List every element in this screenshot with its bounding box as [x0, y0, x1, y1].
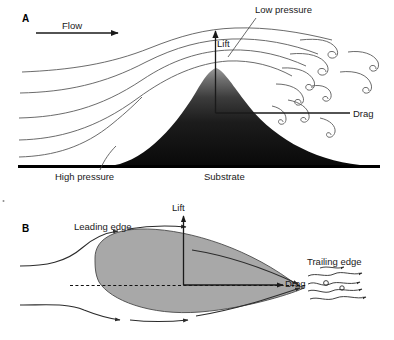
wake-squiggle-5 [320, 267, 344, 268]
eddy-10 [312, 85, 331, 101]
b-streamline-upper-mid [128, 226, 186, 229]
b-streamline-lower-mid [130, 320, 188, 322]
eddy-7 [288, 100, 309, 122]
high-pressure-label: High pressure [55, 171, 114, 182]
streamline-5 [19, 97, 142, 157]
eddy-8 [272, 106, 286, 124]
diagram-svg: Flow Lift Drag Low pressure High pressur… [0, 0, 394, 340]
flow-label: Flow [62, 20, 82, 31]
wake-squiggle-3 [308, 289, 362, 292]
streamline-3 [19, 50, 306, 118]
low-pressure-label: Low pressure [255, 4, 312, 15]
eddy-3 [348, 51, 379, 71]
wake-group [308, 267, 366, 299]
eddy-5 [340, 72, 372, 94]
eddy-1 [300, 39, 338, 58]
eddy-4 [282, 68, 315, 90]
drag-label-a: Drag [353, 108, 374, 119]
wake-squiggle-1 [308, 273, 362, 276]
substrate-mound [108, 68, 378, 166]
wake-squiggle-2 [308, 282, 360, 285]
airfoil-body [95, 229, 304, 313]
eddy-2 [290, 53, 328, 75]
substrate-label: Substrate [204, 171, 245, 182]
lift-label-a: Lift [217, 38, 230, 49]
panel-a: Flow Lift Drag Low pressure High pressur… [18, 4, 380, 182]
eddy-group [272, 39, 379, 137]
panel-b-letter: B [22, 223, 29, 234]
drag-label-b: Drag [285, 278, 306, 289]
b-streamline-lower-front [20, 305, 120, 320]
leading-edge-label: Leading edge [74, 221, 132, 232]
trailing-edge-label: Trailing edge [307, 256, 362, 267]
lift-label-b: Lift [172, 202, 185, 213]
eddy-9 [320, 118, 335, 137]
panel-a-letter: A [22, 13, 29, 24]
streamline-2 [20, 39, 318, 93]
figure-root: Flow Lift Drag Low pressure High pressur… [0, 0, 394, 340]
margin-artifact [3, 200, 5, 202]
streamline-1 [22, 28, 332, 72]
panel-b: Lift Drag Leading edge Trailing edge B [3, 200, 367, 322]
wake-squiggle-4 [310, 297, 366, 300]
eddy-6 [276, 84, 304, 105]
